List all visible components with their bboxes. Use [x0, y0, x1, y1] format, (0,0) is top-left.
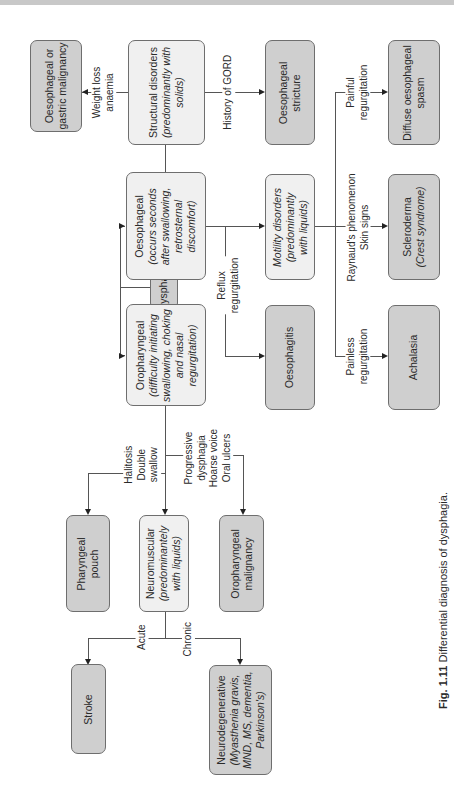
- page-top-bar: [0, 0, 454, 5]
- node-oesophagitis-label: Oesophagitis: [284, 327, 297, 388]
- node-line: malignancy: [242, 529, 255, 598]
- edge-label-line: Double: [136, 446, 149, 484]
- node-detail: solids): [173, 77, 185, 107]
- caption-text: Differential diagnosis of dysphagia.: [437, 492, 449, 662]
- connector: [165, 610, 166, 638]
- edge-label-line: swallow: [148, 446, 161, 484]
- node-line: Oesophageal or: [43, 43, 56, 130]
- edge-label-line: regurgitation: [358, 64, 371, 120]
- edge-label-line: Progressive: [183, 429, 196, 487]
- edge-label-line: Painless: [346, 328, 359, 384]
- connector: [243, 455, 244, 509]
- node-detail: (predominantely: [158, 526, 170, 601]
- connector: [240, 638, 241, 659]
- node-stroke: Stroke: [71, 664, 106, 754]
- node-oropharyngeal-malignancy: Oropharyngeal malignancy: [219, 515, 264, 612]
- edge-label-history-gord: History of GORD: [218, 55, 238, 130]
- node-line: (predominantly: [284, 192, 296, 261]
- figure-caption: Fig. 1.11 Differential diagnosis of dysp…: [432, 400, 454, 800]
- node-achalasia-label: Achalasia: [408, 335, 421, 381]
- connector: [225, 356, 261, 357]
- edge-label-line: anaemia: [104, 66, 117, 118]
- node-detail: regurgitation): [186, 324, 198, 386]
- edge-label-halitosis: Halitosis Double swallow: [120, 440, 164, 490]
- node-detail: (Myasthenia gravis,: [228, 674, 240, 765]
- node-oesophageal: Oesophageal (occurs seconds after swallo…: [126, 172, 206, 280]
- node-detail: and nasal: [173, 332, 185, 378]
- node-detail: (predominantly with: [160, 47, 172, 138]
- node-line: pouch: [88, 537, 101, 590]
- node-line: with liquids): [297, 200, 309, 255]
- node-neurodegenerative-title: Neurodegenerative: [215, 671, 228, 768]
- connector: [88, 473, 89, 509]
- node-neuromuscular: Neuromuscular (predominantely with liqui…: [139, 515, 189, 612]
- connector: [88, 638, 241, 639]
- node-line: Scleroderma: [401, 186, 414, 267]
- node-line: Motility disorders: [271, 188, 283, 267]
- arrow-icon: [119, 223, 125, 229]
- node-detail: retrosternal: [173, 199, 185, 252]
- node-detail: discomfort): [186, 200, 198, 252]
- node-oesophagitis: Oesophagitis: [265, 305, 315, 410]
- connector: [88, 638, 89, 659]
- edge-label-line: Hoarse voice: [208, 429, 221, 487]
- node-pharyngeal-pouch: Pharyngeal pouch: [66, 515, 110, 612]
- edge-label-line: Raynaud's phenomenon: [346, 173, 359, 281]
- node-structural-disorders: Structural disorders (predominantly with…: [128, 40, 205, 145]
- edge-label-chronic: Chronic: [180, 618, 196, 660]
- node-detail: (occurs seconds: [147, 188, 159, 264]
- node-oesophageal-title: Oesophageal: [134, 187, 147, 265]
- edge-label-raynaud: Raynaud's phenomenon Skin signs: [341, 185, 375, 269]
- edge-label-painless: Painless regurgitation: [341, 333, 375, 379]
- node-line: stricture: [290, 61, 303, 123]
- node-line: Oesophageal: [277, 61, 290, 123]
- node-line: Oropharyngeal: [229, 529, 242, 598]
- edge-label-reflux: Reflux regurgitation: [212, 262, 246, 308]
- connector: [165, 145, 166, 172]
- connector: [335, 92, 336, 356]
- edge-label-line: Weight loss: [92, 66, 105, 118]
- node-detail: with liquids): [171, 536, 183, 591]
- node-gastric-malignancy: Oesophageal or gastric malignancy: [30, 40, 82, 132]
- node-scleroderma: Scleroderma (Crest syndrome): [388, 174, 440, 280]
- edge-label-line: Halitosis: [123, 446, 136, 484]
- edge-label-line: Reflux: [217, 257, 230, 313]
- node-oropharyngeal-title: Oropharyngeal: [134, 309, 147, 402]
- edge-label-line: Oral ulcers: [221, 429, 234, 487]
- arrow-icon: [119, 353, 125, 359]
- node-achalasia: Achalasia: [388, 305, 440, 410]
- node-neuromuscular-title: Neuromuscular: [145, 526, 158, 601]
- connector: [315, 226, 335, 227]
- node-detail: (difficulty initiating: [147, 314, 159, 397]
- node-line: Pharyngeal: [75, 537, 88, 590]
- edge-label-progressive: Progressive dysphagia Hoarse voice Oral …: [180, 425, 236, 491]
- node-stroke-label: Stroke: [82, 694, 95, 724]
- connector: [205, 226, 261, 227]
- node-detail: MND, MS, dementia,: [241, 671, 253, 768]
- node-line: (Crest syndrome): [414, 186, 426, 267]
- edge-label-line: regurgitation: [229, 257, 242, 313]
- edge-label-line: regurgitation: [358, 328, 371, 384]
- node-line: gastric malignancy: [56, 43, 69, 130]
- node-neurodegenerative: Neurodegenerative (Myasthenia gravis, MN…: [209, 665, 272, 775]
- node-detail: Parkinson's): [254, 691, 266, 748]
- connector: [120, 226, 121, 356]
- edge-label-line: Skin signs: [358, 173, 371, 281]
- node-oesophageal-stricture: Oesophageal stricture: [265, 40, 315, 145]
- node-oropharyngeal: Oropharyngeal (difficulty initiating swa…: [126, 304, 206, 406]
- edge-label-line: Painful: [346, 64, 359, 120]
- edge-label-line: dysphagia: [196, 429, 209, 487]
- node-motility-disorders: Motility disorders (predominantly with l…: [265, 174, 315, 280]
- node-structural-title: Structural disorders: [147, 47, 160, 138]
- node-diffuse-spasm: Diffuse oesophageal spasm: [388, 40, 440, 145]
- edge-label-painful: Painful regurgitation: [341, 70, 375, 114]
- node-detail: swallowing, choking: [160, 309, 172, 402]
- edge-label-acute: Acute: [134, 620, 150, 654]
- node-line: spasm: [414, 45, 427, 141]
- node-detail: after swallowing,: [160, 187, 172, 265]
- connector: [165, 405, 166, 509]
- edge-label-weight-loss: Weight loss anaemia: [88, 62, 120, 122]
- connector: [120, 287, 150, 288]
- node-line: Diffuse oesophageal: [401, 45, 414, 141]
- caption-number: Fig. 1.11: [437, 665, 449, 708]
